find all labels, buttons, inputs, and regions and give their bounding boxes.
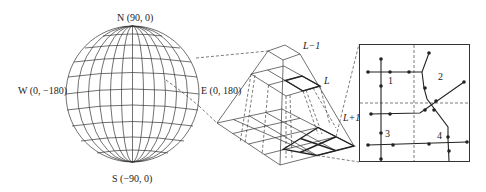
globe [66, 26, 199, 162]
west-label: W (0, −180) [18, 85, 67, 97]
diagram-canvas: N (90, 0) S (−90, 0) W (0, −180) E (0, 1… [0, 0, 486, 192]
south-label: S (−90, 0) [112, 173, 152, 185]
level-label-l-plus-1: L+1 [342, 112, 360, 123]
east-label: E (0, 180) [201, 85, 241, 97]
region-label-2: 2 [438, 71, 443, 82]
region-label-1: 1 [388, 75, 393, 86]
tile-pyramid [217, 45, 354, 165]
tile-detail [360, 45, 470, 162]
region-label-4: 4 [437, 130, 442, 141]
level-label-l-minus-1: L−1 [302, 40, 320, 51]
level-label-l: L [323, 75, 330, 86]
region-label-3: 3 [385, 128, 390, 139]
north-label: N (90, 0) [117, 12, 153, 24]
